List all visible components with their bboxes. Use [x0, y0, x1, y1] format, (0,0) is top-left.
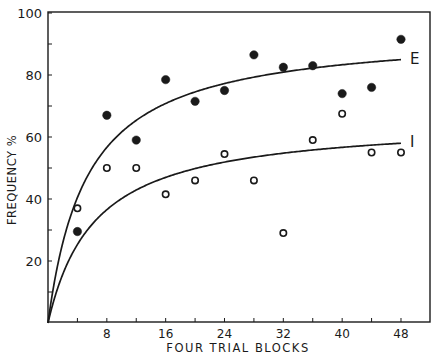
open-point — [74, 205, 80, 211]
chart-canvas: 20406080100 81624324048 EI FREQUENCY % F… — [0, 0, 435, 356]
curve-label-e: E — [410, 50, 419, 68]
filled-point — [279, 63, 287, 71]
open-point — [280, 230, 286, 236]
filled-point — [191, 97, 199, 105]
filled-point — [220, 86, 228, 94]
filled-point — [367, 83, 375, 91]
y-axis: 20406080100 — [17, 6, 52, 292]
x-tick-label: 8 — [103, 327, 111, 341]
x-tick-label: 40 — [335, 327, 350, 341]
open-point — [368, 149, 374, 155]
filled-point — [397, 35, 405, 43]
open-point — [221, 151, 227, 157]
filled-point — [73, 227, 81, 235]
open-point — [104, 165, 110, 171]
fit-curves: EI — [48, 50, 419, 323]
fit-curve-e — [48, 60, 401, 323]
y-tick-label: 100 — [17, 6, 42, 21]
open-point — [339, 111, 345, 117]
y-axis-label: FREQUENCY % — [5, 135, 19, 225]
filled-point — [250, 51, 258, 59]
filled-point — [132, 136, 140, 144]
filled-point — [309, 61, 317, 69]
y-tick-label: 40 — [25, 192, 42, 207]
data-points — [73, 35, 405, 236]
fit-curve-i — [48, 143, 401, 323]
filled-point — [338, 89, 346, 97]
filled-point — [161, 75, 169, 83]
x-tick-label: 16 — [158, 327, 173, 341]
open-point — [192, 177, 198, 183]
x-tick-label: 32 — [276, 327, 291, 341]
open-point — [133, 165, 139, 171]
x-tick-label: 48 — [393, 327, 408, 341]
x-axis-label: FOUR TRIAL BLOCKS — [166, 341, 309, 355]
open-point — [162, 191, 168, 197]
curve-label-i: I — [410, 133, 414, 151]
frequency-chart: 20406080100 81624324048 EI FREQUENCY % F… — [0, 0, 435, 356]
filled-point — [103, 111, 111, 119]
y-tick-label: 80 — [25, 68, 42, 83]
y-tick-label: 20 — [25, 254, 42, 269]
open-point — [310, 137, 316, 143]
open-point — [398, 149, 404, 155]
open-point — [251, 177, 257, 183]
y-tick-label: 60 — [25, 130, 42, 145]
x-tick-label: 24 — [217, 327, 232, 341]
